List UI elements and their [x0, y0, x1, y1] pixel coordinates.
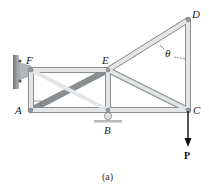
theta-label: θ	[165, 47, 171, 59]
joint-label-B: B	[104, 124, 111, 136]
load-arrow: P	[184, 111, 192, 161]
joint-label-D: D	[191, 8, 200, 20]
truss-members	[31, 20, 188, 110]
truss-diagram: θ P F E D A B C (a)	[0, 0, 209, 191]
angle-indicator: θ	[160, 45, 185, 59]
joint-label-C: C	[193, 104, 201, 116]
figure-caption: (a)	[102, 171, 113, 183]
load-label-P: P	[184, 150, 190, 161]
roller-support	[94, 112, 122, 123]
joint-label-A: A	[14, 104, 22, 116]
joint-label-F: F	[25, 54, 33, 66]
joint-label-E: E	[101, 54, 109, 66]
